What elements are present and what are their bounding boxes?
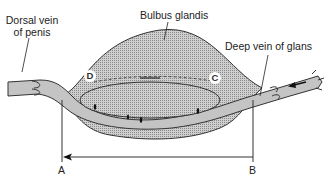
- label-dorsal-vein-line1: Dorsal vein: [4, 14, 60, 26]
- label-dorsal-vein: Dorsal vein of penis: [4, 14, 60, 38]
- label-point-d: D: [84, 70, 96, 82]
- diagram: Dorsal vein of penis Bulbus glandis Deep…: [0, 0, 334, 184]
- label-point-a: A: [58, 164, 65, 176]
- label-deep-vein: Deep vein of glans: [225, 40, 312, 52]
- label-bulbus-glandis: Bulbus glandis: [140, 9, 208, 21]
- label-point-b: B: [249, 164, 256, 176]
- label-dorsal-vein-line2: of penis: [4, 26, 60, 38]
- label-point-c: C: [209, 72, 221, 84]
